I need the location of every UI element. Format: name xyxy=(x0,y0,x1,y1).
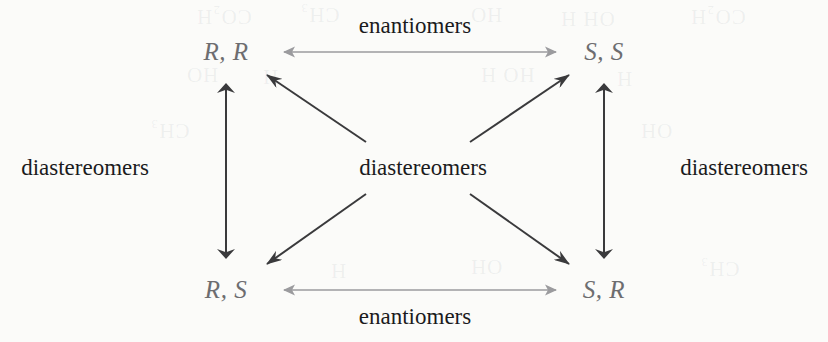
relationship-label-enantiomers-bottom: enantiomers xyxy=(359,304,471,330)
diastereomers-center-to-sr-arrow xyxy=(470,194,569,264)
diastereomers-center-to-rs-arrow xyxy=(267,194,366,264)
relationship-label-enantiomers-top: enantiomers xyxy=(359,13,471,39)
node-label-sr: S, R xyxy=(583,276,625,304)
node-label-ss: S, S xyxy=(584,38,624,66)
diastereomers-center-to-rr-arrow xyxy=(267,75,366,142)
node-label-rs: R, S xyxy=(205,276,247,304)
stereochemistry-diagram: CO₂HCH₃HOOH HCO₂HHOHHO HHCH₃OHHOHCH₃ xyxy=(0,0,828,342)
relationship-label-diastereomers-left: diastereomers xyxy=(21,155,149,181)
node-label-rr: R, R xyxy=(203,38,248,66)
diastereomers-center-to-ss-arrow xyxy=(470,75,569,142)
relationship-label-diastereomers-right: diastereomers xyxy=(680,155,808,181)
relationship-label-diastereomers-center: diastereomers xyxy=(359,155,487,181)
